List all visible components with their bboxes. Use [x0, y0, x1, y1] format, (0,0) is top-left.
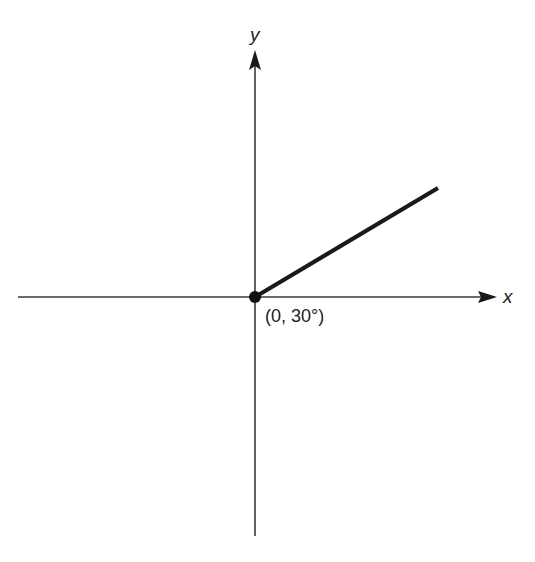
ray-30-degrees	[255, 188, 438, 297]
polar-diagram	[0, 0, 535, 562]
point-label: (0, 30°)	[265, 306, 324, 327]
y-axis-label: y	[250, 24, 260, 46]
origin-point	[249, 291, 261, 303]
x-axis-label: x	[503, 286, 513, 308]
